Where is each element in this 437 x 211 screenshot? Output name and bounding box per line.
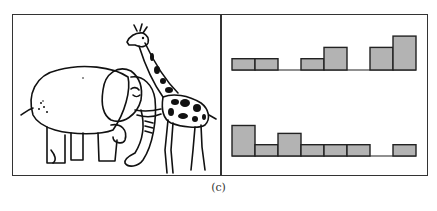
histogram-bar — [301, 145, 324, 156]
figure-caption: (c) — [0, 181, 437, 194]
giraffe — [127, 24, 216, 173]
histogram-bar — [278, 133, 301, 156]
histogram-bar — [324, 47, 347, 70]
histogram-bar — [347, 145, 370, 156]
elephant-giraffe-illustration — [13, 15, 220, 175]
histogram-bar — [370, 47, 393, 70]
histogram-bar — [393, 36, 416, 70]
histogram-top — [232, 36, 416, 70]
histogram-bar — [255, 59, 278, 70]
histogram-panel — [222, 15, 427, 175]
histogram-bar — [232, 125, 255, 156]
illustration-panel — [13, 15, 220, 175]
histogram-bar — [393, 145, 416, 156]
histogram-bottom — [232, 125, 416, 156]
histogram-bar — [301, 59, 324, 70]
elephant-body — [31, 66, 129, 133]
giraffe-spots — [142, 37, 206, 122]
histogram-bar — [324, 145, 347, 156]
histogram-bar — [255, 145, 278, 156]
elephant-dots — [38, 77, 84, 113]
histogram-bar — [232, 59, 255, 70]
histograms — [222, 15, 427, 175]
